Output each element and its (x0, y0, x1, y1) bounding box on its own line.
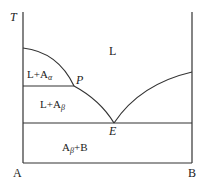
temperature-axis-label: T (10, 10, 18, 24)
liquidus-beta-curve (74, 86, 114, 123)
component-a-label: A (13, 166, 22, 180)
peritectic-point-label: P (75, 73, 84, 87)
region-liquid: L (109, 44, 116, 58)
eutectic-point-label: E (108, 124, 117, 138)
region-a-beta-b: Aβ+B (62, 141, 87, 155)
region-l-a-alpha: L+Aα (27, 68, 53, 82)
region-l-a-beta: L+Aβ (40, 98, 65, 112)
liquidus-b-curve (114, 72, 192, 123)
phase-diagram: T A B L L+Aα P L+Aβ E Aβ+B (0, 0, 201, 181)
component-b-label: B (188, 166, 196, 180)
